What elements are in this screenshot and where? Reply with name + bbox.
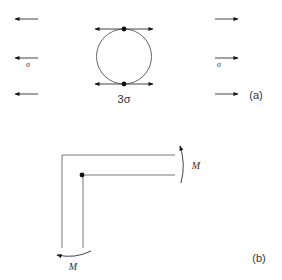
panel-b: M M (b) [57,146,266,272]
right-tension-arrows [215,19,238,94]
circular-hole [97,29,152,84]
right-moment-label: M [191,160,201,171]
stress-concentration-figure: σ 3σ σ (a) M M (b) [0,0,282,280]
hole-top-point [122,27,127,32]
l-bar-inner-edge [83,175,175,248]
panel-a: σ 3σ σ (a) [15,19,263,105]
re-entrant-corner-point [80,173,85,178]
left-sigma-label: σ [26,60,31,69]
hole-stress-label: 3σ [118,93,131,105]
l-bar-outer-edge [62,155,175,248]
hole-bottom-point [122,82,127,87]
bottom-moment-label: M [68,261,78,272]
right-moment-arrow [180,146,183,183]
left-tension-arrows [15,19,38,94]
panel-b-label: (b) [252,252,265,264]
bottom-moment-arrow [57,251,91,256]
right-sigma-label: σ [217,60,222,69]
panel-a-label: (a) [249,89,262,101]
